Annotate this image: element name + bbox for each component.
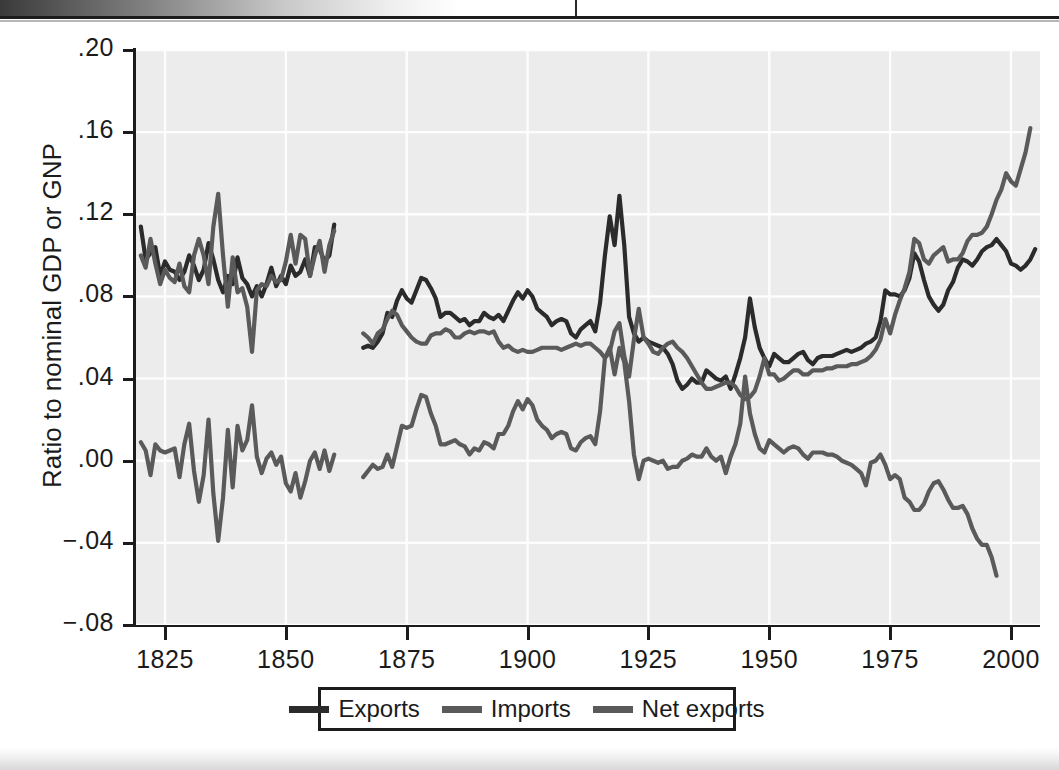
y-tick-mark — [123, 131, 136, 134]
y-tick-mark — [123, 624, 136, 627]
legend-item-exports[interactable]: Exports — [289, 695, 419, 723]
x-tick-label: 1900 — [468, 645, 588, 674]
chart-legend: Exports Imports Net exports — [318, 687, 736, 731]
series-canvas — [136, 50, 1040, 625]
figure-page: .20.16.12.08.04.00−.04−.08 1825185018751… — [0, 0, 1059, 770]
y-tick-mark — [123, 378, 136, 381]
gridlines — [136, 50, 1040, 625]
x-tick-label: 1875 — [347, 645, 467, 674]
x-tick-mark — [1010, 627, 1013, 640]
line-chart: .20.16.12.08.04.00−.04−.08 1825185018751… — [0, 0, 1059, 770]
y-tick-mark — [123, 460, 136, 463]
x-tick-mark — [285, 627, 288, 640]
x-tick-mark — [647, 627, 650, 640]
x-tick-mark — [768, 627, 771, 640]
y-tick-mark — [123, 213, 136, 216]
x-tick-label: 1975 — [830, 645, 950, 674]
y-tick-label: −.08 — [22, 608, 114, 637]
legend-swatch-exports — [289, 706, 329, 713]
x-tick-mark — [406, 627, 409, 640]
data-lines — [141, 128, 1035, 576]
legend-label-net-exports: Net exports — [642, 695, 765, 723]
legend-item-net-exports[interactable]: Net exports — [593, 695, 765, 723]
x-tick-label: 1825 — [105, 645, 225, 674]
y-axis-title: Ratio to nominal GDP or GNP — [37, 36, 68, 596]
y-tick-mark — [123, 542, 136, 545]
legend-swatch-net-exports — [593, 706, 633, 713]
legend-swatch-imports — [442, 706, 482, 713]
legend-label-exports: Exports — [338, 695, 419, 723]
x-tick-label: 1950 — [709, 645, 829, 674]
x-tick-label: 1850 — [226, 645, 346, 674]
x-tick-mark — [527, 627, 530, 640]
legend-label-imports: Imports — [491, 695, 571, 723]
x-tick-label: 1925 — [588, 645, 708, 674]
y-tick-mark — [123, 295, 136, 298]
legend-item-imports[interactable]: Imports — [442, 695, 571, 723]
x-tick-mark — [889, 627, 892, 640]
y-tick-mark — [123, 49, 136, 52]
x-tick-label: 2000 — [951, 645, 1059, 674]
x-tick-mark — [164, 627, 167, 640]
